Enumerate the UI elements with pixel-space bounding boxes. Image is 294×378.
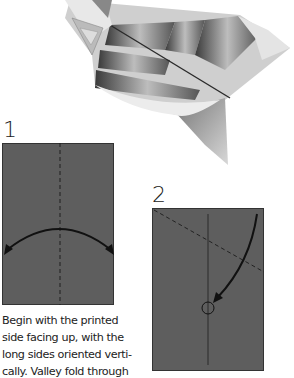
step-1-paper-diagram: [2, 143, 114, 305]
step-2-number: 2: [152, 184, 166, 206]
diagonal-valley-fold-line: [154, 210, 264, 272]
caption-line: long sides oriented verti-: [2, 346, 142, 363]
step-2-paper-diagram: [152, 208, 264, 371]
caption-line: cally. Valley fold through: [2, 363, 142, 378]
step-1-number: 1: [3, 119, 17, 141]
double-headed-curved-arrow-icon: [7, 229, 111, 250]
caption-line: Begin with the printed: [2, 312, 142, 329]
curved-arrow-icon: [218, 214, 257, 297]
caption-line: side facing up, with the: [2, 329, 142, 346]
step-1-caption: Begin with the printed side facing up, w…: [2, 312, 142, 378]
